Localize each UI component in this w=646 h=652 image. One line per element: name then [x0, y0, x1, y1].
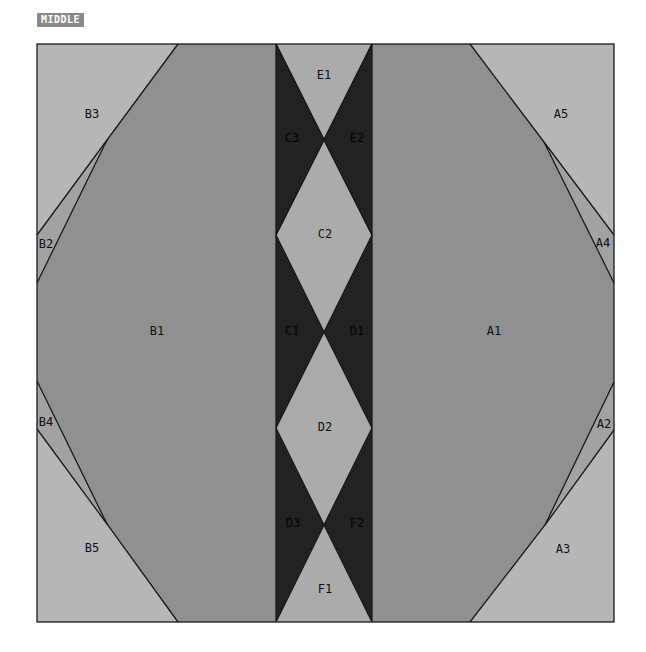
quilt-block-diagram: B3 B2 B1 B4 B5 A5 A4 A1 A2 A3 E1 C3 E2 C…	[0, 0, 646, 652]
label-A5: A5	[554, 107, 568, 121]
label-C3: C3	[285, 131, 299, 145]
label-D3: D3	[286, 516, 300, 530]
label-B1: B1	[150, 324, 164, 338]
label-B3: B3	[85, 107, 99, 121]
label-E2: E2	[350, 131, 364, 145]
label-D2: D2	[318, 420, 332, 434]
label-A4: A4	[596, 236, 610, 250]
label-A3: A3	[556, 542, 570, 556]
label-E1: E1	[317, 68, 331, 82]
label-A1: A1	[487, 324, 501, 338]
label-A2: A2	[597, 417, 611, 431]
label-B2: B2	[39, 237, 53, 251]
label-B4: B4	[39, 415, 53, 429]
label-B5: B5	[85, 541, 99, 555]
label-F1: F1	[318, 582, 332, 596]
label-C1: C1	[285, 324, 299, 338]
label-C2: C2	[318, 227, 332, 241]
label-F2: F2	[350, 516, 364, 530]
label-D1: D1	[350, 324, 364, 338]
